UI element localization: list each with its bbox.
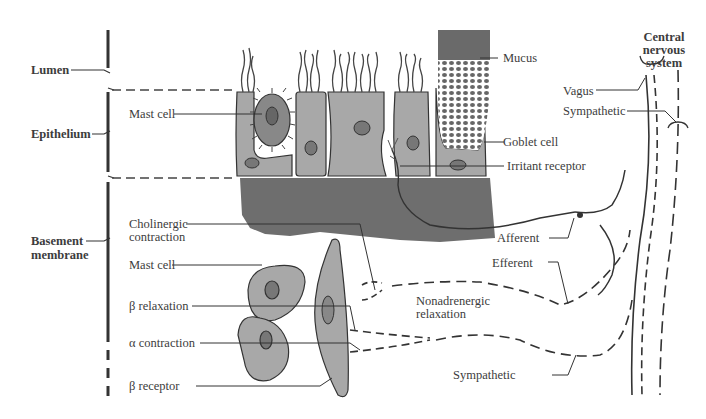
label-mast-cell-bottom: Mast cell [129,258,175,272]
label-sympathetic-bottom: Sympathetic [453,368,516,382]
label-contraction: contraction [129,230,185,244]
layer-dividers [112,90,232,178]
label-basement: Basement [31,234,83,248]
cilia [242,48,423,92]
label-mast-cell-top: Mast cell [129,107,175,121]
label-epithelium: Epithelium [31,127,91,141]
label-cns-2: nervous [636,43,692,57]
label-mucus: Mucus [503,51,537,65]
label-relaxation: relaxation [416,307,466,321]
label-cholinergic: Cholinergic [129,217,188,231]
mast-cell-epithelium [250,88,295,152]
label-cns-1: Central [636,30,692,44]
label-irritant-receptor: Irritant receptor [507,159,586,173]
label-beta-relaxation: β relaxation [129,299,188,313]
label-beta-receptor: β receptor [129,379,179,393]
cns-tracts [632,70,679,395]
label-membrane: membrane [31,248,89,262]
label-lumen: Lumen [31,63,69,77]
label-afferent: Afferent [497,231,539,245]
label-goblet-cell: Goblet cell [503,135,558,149]
mast-cells-submucosa [238,265,305,381]
label-sympathetic-top: Sympathetic [563,104,626,118]
nerve-fibers [350,230,632,356]
basement-membrane [240,178,495,242]
smooth-muscle-cell [315,239,349,397]
label-vagus: Vagus [563,84,594,98]
label-nonadrenergic: Nonadrenergic [416,294,490,308]
mucus [438,30,490,150]
label-alpha-contraction: α contraction [129,336,195,350]
label-cns-3: system [636,56,692,70]
airway-innervation-diagram [0,0,706,419]
label-efferent: Efferent [492,256,533,270]
